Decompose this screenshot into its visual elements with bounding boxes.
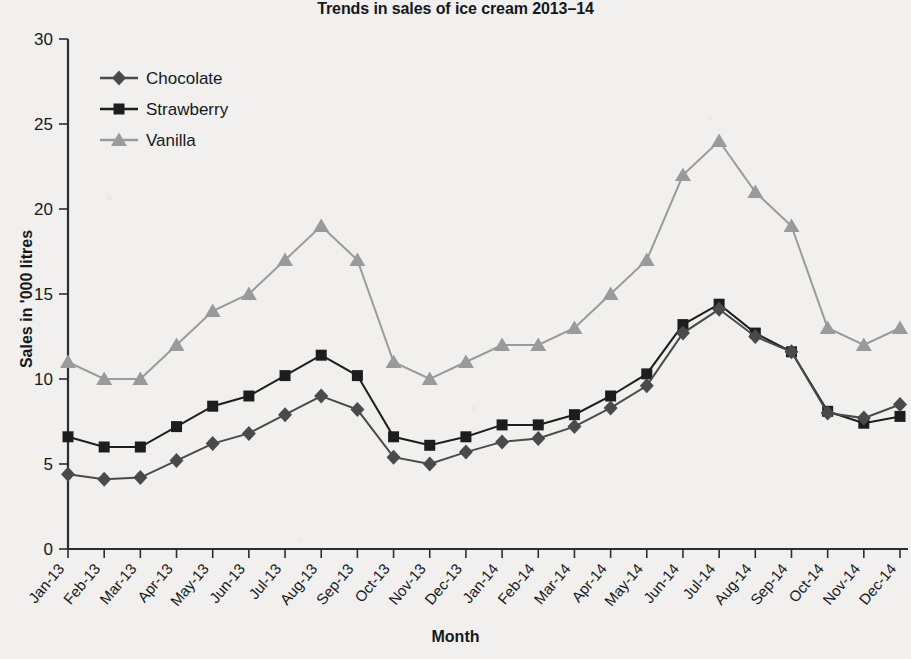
data-point: [242, 426, 256, 441]
ice-cream-sales-chart: Trends in sales of ice cream 2013–14 Sal…: [0, 0, 911, 659]
data-point: [533, 419, 544, 430]
x-tick-label: Jan-14: [459, 560, 502, 606]
data-point: [747, 185, 763, 199]
x-tick-label: Feb-14: [494, 560, 538, 607]
data-point: [388, 431, 399, 442]
legend-label: Strawberry: [146, 100, 229, 119]
data-point: [63, 431, 74, 442]
legend-item-chocolate[interactable]: Chocolate: [100, 69, 223, 88]
data-point: [170, 453, 184, 468]
data-point: [893, 397, 907, 412]
data-point: [895, 411, 906, 422]
legend-item-strawberry[interactable]: Strawberry: [100, 100, 229, 119]
legend-label: Chocolate: [146, 69, 223, 88]
data-point: [60, 355, 76, 369]
x-tick-label: Jun-13: [206, 560, 249, 606]
series-chocolate: [61, 302, 907, 487]
data-point: [458, 355, 474, 369]
data-point: [711, 134, 727, 148]
data-point: [567, 419, 581, 434]
y-tick-label: 25: [34, 115, 53, 134]
x-tick-label: May-14: [601, 560, 646, 609]
x-tick-label: Mar-13: [96, 560, 140, 607]
plot-area: 051015202530Jan-13Feb-13Mar-13Apr-13May-…: [0, 0, 911, 659]
data-point: [497, 419, 508, 430]
y-tick-label: 10: [34, 370, 53, 389]
data-point: [424, 440, 435, 451]
x-tick-label: Dec-14: [855, 560, 899, 608]
data-point: [205, 304, 221, 318]
data-point: [61, 467, 75, 482]
x-tick-label: Mar-14: [530, 560, 574, 607]
data-point: [207, 401, 218, 412]
legend-marker-diamond-icon: [112, 71, 126, 86]
data-point: [313, 219, 329, 233]
data-point: [422, 372, 438, 386]
x-tick-label: Nov-13: [385, 560, 429, 608]
data-point: [460, 431, 471, 442]
data-point: [856, 338, 872, 352]
data-point: [892, 321, 908, 335]
y-tick-label: 20: [34, 200, 53, 219]
y-axis-ticks: 051015202530: [34, 30, 68, 559]
data-point: [423, 457, 437, 472]
data-point: [640, 378, 654, 393]
series-strawberry: [63, 299, 906, 453]
legend-item-vanilla[interactable]: Vanilla: [100, 131, 196, 150]
series-line: [68, 304, 900, 447]
x-tick-label: Aug-13: [276, 560, 320, 608]
data-point: [531, 431, 545, 446]
data-point: [278, 407, 292, 422]
y-tick-label: 0: [44, 540, 53, 559]
series-line: [68, 309, 900, 479]
y-tick-label: 30: [34, 30, 53, 49]
data-point: [352, 370, 363, 381]
x-tick-label: Sep-14: [747, 560, 791, 608]
data-point: [314, 389, 328, 404]
data-point: [605, 391, 616, 402]
data-point: [386, 355, 402, 369]
data-point: [641, 368, 652, 379]
data-point: [316, 350, 327, 361]
data-point: [459, 445, 473, 460]
x-axis-ticks: Jan-13Feb-13Mar-13Apr-13May-13Jun-13Jul-…: [25, 549, 900, 609]
data-point: [820, 321, 836, 335]
x-tick-label: Feb-13: [60, 560, 104, 607]
data-point: [604, 400, 618, 415]
data-point: [133, 470, 147, 485]
data-point: [97, 472, 111, 487]
data-point: [99, 442, 110, 453]
x-tick-label: Nov-14: [819, 560, 863, 608]
legend-marker-square-icon: [114, 104, 125, 115]
x-tick-label: Aug-14: [710, 560, 754, 608]
x-tick-label: Dec-13: [421, 560, 465, 608]
y-tick-label: 5: [44, 455, 53, 474]
data-point: [495, 434, 509, 449]
data-point: [171, 421, 182, 432]
data-point: [135, 442, 146, 453]
x-tick-label: Jan-13: [25, 560, 68, 606]
data-point: [569, 409, 580, 420]
data-point: [280, 370, 291, 381]
x-tick-label: Sep-13: [313, 560, 357, 608]
x-tick-label: Jun-14: [640, 560, 683, 606]
y-tick-label: 15: [34, 285, 53, 304]
data-point: [206, 436, 220, 451]
data-point: [243, 391, 254, 402]
data-point: [639, 253, 655, 267]
x-tick-label: May-13: [167, 560, 212, 609]
legend: ChocolateStrawberryVanilla: [100, 69, 229, 150]
legend-label: Vanilla: [146, 131, 196, 150]
